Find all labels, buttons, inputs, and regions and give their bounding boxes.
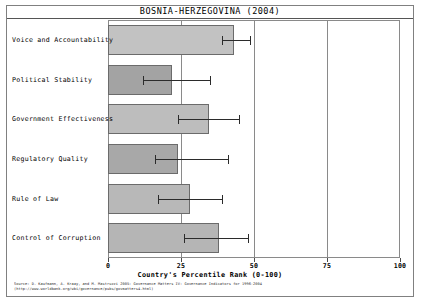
error-bar-cap-high [248, 234, 249, 243]
bar-voice-and-accountability [108, 25, 234, 55]
source-note: Source: D. Kaufmann, A. Kraay, and M. Ma… [14, 282, 410, 292]
error-bar-cap-high [210, 76, 211, 85]
error-bar-cap-low [222, 36, 223, 45]
category-label-regulatory-quality: Regulatory Quality [12, 155, 106, 163]
category-label-political-stability: Political Stability [12, 76, 106, 84]
chart-page: BOSNIA-HERZEGOVINA (2004) Voice and Acco… [0, 0, 422, 303]
category-label-control-of-corruption: Control of Corruption [12, 234, 106, 242]
error-bar-cap-low [143, 76, 144, 85]
x-tick-label-75: 75 [312, 262, 342, 270]
error-bar-line [178, 119, 239, 120]
chart-title: BOSNIA-HERZEGOVINA (2004) [6, 6, 414, 16]
error-bar-cap-low [158, 195, 159, 204]
bar-row [108, 104, 400, 134]
error-bar-cap-high [239, 115, 240, 124]
error-bar-cap-low [178, 115, 179, 124]
error-bar-line [222, 40, 250, 41]
error-bar-line [143, 80, 210, 81]
error-bar-cap-low [184, 234, 185, 243]
error-bar-cap-high [222, 195, 223, 204]
error-bar-cap-high [228, 155, 229, 164]
x-tick-label-50: 50 [239, 262, 269, 270]
error-bar-line [158, 199, 222, 200]
error-bar-cap-low [155, 155, 156, 164]
bar-row [108, 144, 400, 174]
bar-row [108, 223, 400, 253]
x-tick-label-25: 25 [166, 262, 196, 270]
x-axis-title: Country's Percentile Rank (0-100) [6, 271, 414, 279]
error-bar-line [184, 238, 248, 239]
title-divider [7, 18, 413, 19]
category-label-rule-of-law: Rule of Law [12, 195, 106, 203]
plot-area [108, 20, 400, 258]
x-tick-label-0: 0 [93, 262, 123, 270]
error-bar-line [155, 159, 228, 160]
bar-row [108, 25, 400, 55]
category-label-government-effectiveness: Government Effectiveness [12, 115, 106, 123]
bar-row [108, 65, 400, 95]
x-tick-label-100: 100 [385, 262, 415, 270]
source-line-2: (http://www.worldbank.org/wbi/governance… [14, 287, 410, 292]
category-label-voice-and-accountability: Voice and Accountability [12, 36, 106, 44]
error-bar-cap-high [250, 36, 251, 45]
bar-row [108, 184, 400, 214]
